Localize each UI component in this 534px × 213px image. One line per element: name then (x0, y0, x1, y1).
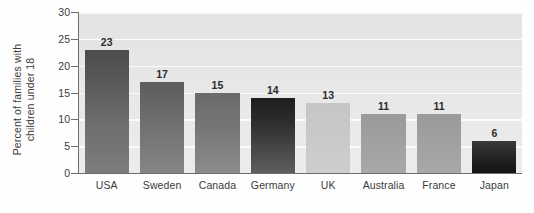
bar-value-label: 6 (472, 127, 516, 139)
x-axis-category-label: Germany (245, 178, 300, 200)
bar-cell: 11 (411, 12, 466, 173)
y-axis-line (78, 12, 79, 173)
x-axis-category-label: Canada (190, 178, 245, 200)
bar-chart-figure: Percent of families with children under … (0, 0, 534, 213)
x-axis-category-labels: USASwedenCanadaGermanyUKAustraliaFranceJ… (79, 178, 522, 200)
bar-cell: 6 (467, 12, 522, 173)
bar: 11 (361, 114, 405, 173)
bar-value-label: 14 (251, 84, 295, 96)
x-axis-category-label: USA (79, 178, 134, 200)
bar-cell: 15 (190, 12, 245, 173)
bar-value-label: 11 (417, 100, 461, 112)
x-axis-category-label: France (411, 178, 466, 200)
bar-value-label: 15 (195, 79, 239, 91)
plot-area: 231715141311116 (79, 12, 522, 173)
bar: 13 (306, 103, 350, 173)
x-axis-category-label: Japan (467, 178, 522, 200)
x-axis-line (78, 173, 522, 174)
bar: 17 (140, 82, 184, 173)
bar-value-label: 23 (85, 36, 129, 48)
x-axis-category-label: Australia (356, 178, 411, 200)
bar-cell: 13 (301, 12, 356, 173)
bar-series: 231715141311116 (79, 12, 522, 173)
bar: 11 (417, 114, 461, 173)
bar: 23 (85, 50, 129, 173)
bar-cell: 23 (79, 12, 134, 173)
bar-cell: 14 (245, 12, 300, 173)
bar-value-label: 17 (140, 68, 184, 80)
bar-value-label: 11 (361, 100, 405, 112)
bar: 6 (472, 141, 516, 173)
bar: 15 (195, 93, 239, 174)
x-axis-category-label: Sweden (134, 178, 189, 200)
x-axis-category-label: UK (301, 178, 356, 200)
bar-cell: 17 (134, 12, 189, 173)
bar-cell: 11 (356, 12, 411, 173)
bar: 14 (251, 98, 295, 173)
bar-value-label: 13 (306, 89, 350, 101)
